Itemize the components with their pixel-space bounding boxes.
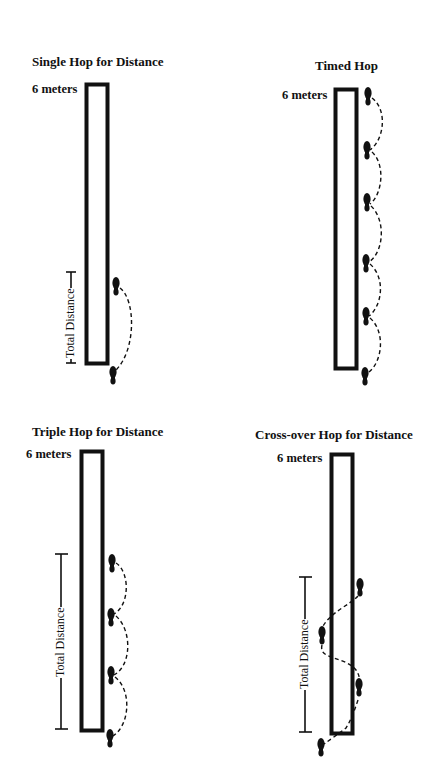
footprint-icon bbox=[112, 277, 119, 295]
distance-label-single-hop: 6 meters bbox=[32, 83, 77, 96]
total-distance-label-triple-hop: Total Distance bbox=[54, 607, 66, 678]
hop-path bbox=[369, 98, 382, 372]
lane-rectangle bbox=[332, 455, 353, 734]
footprint-icon bbox=[356, 578, 363, 596]
footprint-icon bbox=[318, 626, 325, 644]
footprint-icon bbox=[317, 738, 324, 756]
panel-title-triple-hop: Triple Hop for Distance bbox=[32, 425, 163, 438]
cross-over-hop-panel bbox=[299, 455, 364, 757]
panel-title-cross-over-hop: Cross-over Hop for Distance bbox=[255, 428, 413, 441]
total-distance-label-cross-over-hop: Total Distance bbox=[298, 619, 310, 690]
hop-path bbox=[116, 288, 132, 370]
triple-hop-panel bbox=[55, 452, 128, 748]
footprint-icon bbox=[107, 608, 114, 626]
timed-hop-panel bbox=[336, 87, 383, 385]
footprint-icon bbox=[355, 678, 362, 696]
total-distance-label-single-hop: Total Distance bbox=[64, 288, 76, 359]
footprint-icon bbox=[108, 554, 115, 572]
panel-title-single-hop: Single Hop for Distance bbox=[32, 55, 164, 68]
distance-label-triple-hop: 6 meters bbox=[26, 448, 71, 461]
panel-title-timed-hop: Timed Hop bbox=[315, 59, 378, 72]
hop-path bbox=[113, 563, 128, 736]
footprint-icon bbox=[362, 254, 369, 272]
footprint-icon bbox=[363, 193, 370, 211]
footprint-icon bbox=[106, 729, 113, 747]
lane-rectangle bbox=[336, 90, 357, 369]
hop-test-diagram: Single Hop for Distance 6 meters Total D… bbox=[0, 0, 446, 775]
footprint-icon bbox=[107, 666, 114, 684]
distance-label-cross-over-hop: 6 meters bbox=[277, 452, 322, 465]
footprint-icon bbox=[109, 366, 116, 384]
footprint-icon bbox=[361, 367, 368, 385]
lane-rectangle bbox=[82, 452, 103, 731]
footprint-icon bbox=[364, 87, 371, 105]
footprint-icon bbox=[362, 307, 369, 325]
distance-label-timed-hop: 6 meters bbox=[282, 89, 327, 102]
lane-rectangle bbox=[87, 85, 108, 364]
footprint-icon bbox=[363, 141, 370, 159]
